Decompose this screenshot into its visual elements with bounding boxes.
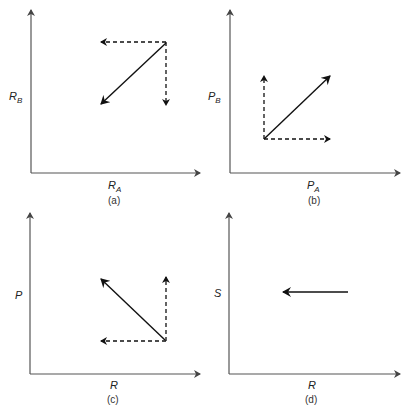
panel-a: RB RA (a) xyxy=(9,10,200,206)
panel-c: P R (c) xyxy=(15,213,200,405)
x-axis-label: R xyxy=(308,379,316,391)
panel-b: PB PA (b) xyxy=(208,10,400,206)
panel-caption: (b) xyxy=(308,195,320,206)
y-axis-label: S xyxy=(214,287,222,299)
diagram-canvas: RB RA (a) PB PA (b) P R (c) S R (d) xyxy=(0,0,407,411)
resultant-vector xyxy=(101,43,166,104)
panel-caption: (d) xyxy=(305,394,317,405)
resultant-vector xyxy=(264,76,330,139)
x-axis-label: RA xyxy=(108,179,121,194)
panel-caption: (c) xyxy=(107,394,119,405)
y-axis-label: RB xyxy=(9,90,23,105)
panel-d: S R (d) xyxy=(214,213,400,405)
x-axis-label: R xyxy=(110,379,118,391)
y-axis-label: PB xyxy=(208,90,221,105)
x-axis-label: PA xyxy=(307,179,320,194)
panel-caption: (a) xyxy=(108,195,120,206)
y-axis-label: P xyxy=(15,289,23,301)
resultant-vector xyxy=(101,279,165,340)
